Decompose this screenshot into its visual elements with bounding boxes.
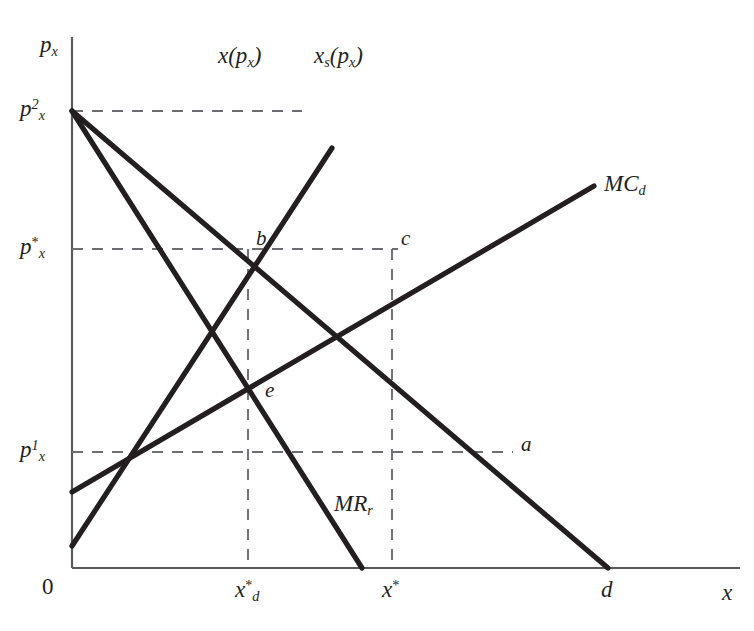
axes-group <box>72 37 740 568</box>
point-label-a: a <box>521 434 532 455</box>
curve-label-supply: xs(px) <box>314 44 363 69</box>
plot-canvas <box>0 0 754 631</box>
tick-label-p-x-star: p*x <box>20 235 45 261</box>
x-axis-title: x <box>722 581 732 604</box>
tick-label-p-x-1: p1x <box>20 438 45 464</box>
economics-diagram: px x 0 p2x p*x p1x x*d x* d x(px) xs(px)… <box>0 0 754 631</box>
curve-supply-xs-px <box>72 148 332 546</box>
point-label-b: b <box>256 228 267 249</box>
curve-label-marginal-cost-dealer: MCd <box>604 172 646 197</box>
tick-label-x-d-star: x*d <box>235 578 259 604</box>
origin-label: 0 <box>42 575 54 598</box>
curve-label-demand: x(px) <box>218 44 261 69</box>
tick-label-x-star: x* <box>382 578 399 601</box>
curve-marginal-revenue-retailer <box>72 111 362 568</box>
curve-label-marginal-revenue-retailer: MRr <box>334 492 373 517</box>
dashed-guides-group <box>72 111 513 568</box>
tick-label-p-x-2: p2x <box>20 97 45 123</box>
point-label-c: c <box>401 228 410 249</box>
y-axis-title: px <box>40 33 58 58</box>
tick-label-d: d <box>601 578 613 601</box>
point-label-e: e <box>265 380 274 401</box>
